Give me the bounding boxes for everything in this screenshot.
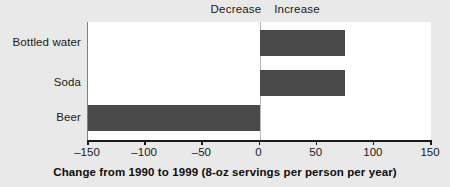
x-axis-tick-label: 100: [350, 146, 396, 158]
bar-soda: [260, 70, 346, 96]
x-axis-tick-label: –150: [64, 146, 110, 158]
y-axis-label-beer: Beer: [56, 111, 81, 123]
bar-bottled-water: [260, 30, 346, 56]
increase-annotation: Increase: [262, 3, 332, 15]
x-axis-tick: [316, 140, 318, 145]
bar-chart: Decrease Increase Bottled water Soda Bee…: [0, 0, 450, 187]
plot-inner: [88, 22, 431, 140]
y-axis-label-soda: Soda: [54, 76, 81, 88]
x-axis-tick: [259, 140, 261, 145]
x-axis-tick-label: 0: [236, 146, 282, 158]
x-axis-tick: [430, 140, 432, 145]
x-axis-tick-label: 150: [407, 146, 450, 158]
y-axis-label-bottled-water: Bottled water: [13, 36, 81, 48]
x-axis-tick-label: –100: [121, 146, 167, 158]
x-axis-tick-label: –50: [178, 146, 224, 158]
x-axis-tick: [373, 140, 375, 145]
x-axis-tick: [201, 140, 203, 145]
x-axis-tick-label: 50: [293, 146, 339, 158]
x-axis-tick: [87, 140, 89, 145]
x-axis-tick: [144, 140, 146, 145]
decrease-annotation: Decrease: [201, 3, 271, 15]
x-axis-title: Change from 1990 to 1999 (8-oz servings …: [0, 166, 450, 178]
bar-beer: [88, 105, 260, 131]
plot-area: [87, 22, 431, 140]
